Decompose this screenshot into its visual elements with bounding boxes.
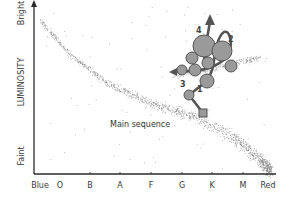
y-label-faint: Faint [17,146,26,165]
x-tick-a: A [117,181,123,190]
axes [31,0,276,174]
x-axis-labels: Blue O B A F G K M Red [31,181,275,190]
y-axis-arrow-icon [31,0,37,7]
x-label-red: Red [260,181,275,190]
star-stage-marker [184,90,194,100]
evolutionary-track [169,14,237,117]
star-stage-marker [177,65,187,75]
star-stage-marker [189,64,201,76]
star-stage-marker [225,60,237,72]
hr-diagram: Bright LUMINOSITY Faint Blue O B A F G K… [0,0,291,212]
turnoff-marker [199,109,207,117]
y-label-bright: Bright [17,1,26,25]
x-tick-k: K [209,181,215,190]
x-tick-g: G [179,181,185,190]
star-stage-marker [193,35,215,57]
x-tick-b: B [87,181,93,190]
stage-label-4: 4 [196,26,202,35]
main-sequence-label: Main sequence [110,120,170,129]
x-label-blue: Blue [31,181,49,190]
x-tick-m: M [240,181,247,190]
star-scatter [40,7,273,183]
star-stage-marker [202,57,214,69]
x-tick-f: F [149,181,154,190]
track-arrow-left-icon [169,68,177,76]
track-markers [177,35,237,117]
track-arrow-up-icon [205,14,215,25]
y-axis-title: LUMINOSITY [17,58,26,107]
stage-label-2: 2 [228,35,234,44]
stage-label-3: 3 [180,80,186,89]
x-tick-o: O [57,181,63,190]
stage-label-1: 1 [197,85,203,94]
star-stage-marker [212,41,232,61]
